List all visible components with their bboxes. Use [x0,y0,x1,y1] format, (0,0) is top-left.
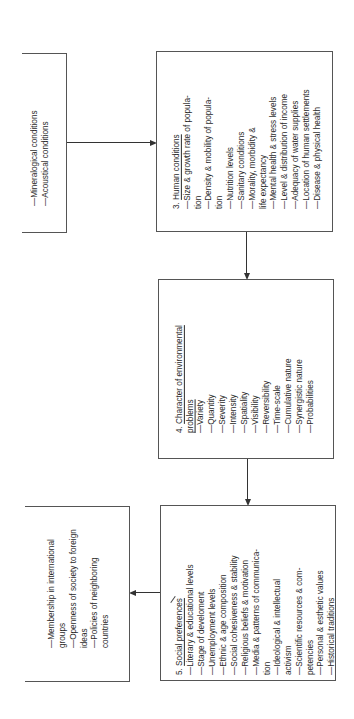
list-item: —Historical traditions [327,515,338,675]
list-item: —Morality, morbidity & [248,63,259,209]
list-item: —Reversibility [262,305,273,433]
list-item: —Literary & educational levels [186,515,197,675]
list-item: —Scientific resources & com- [295,515,306,675]
list-item: —Membership in international [47,530,58,648]
list-item: —Ideological & intellectual [273,515,284,675]
box-title: 5. Social preferences [175,515,186,675]
box-human-conditions-text: 3. Human conditions —Size & growth rate … [172,63,324,209]
list-item: —Mineralogical conditions [30,96,41,206]
list-item: —Disease & physical health [313,63,324,209]
list-item: —Variety [196,305,207,433]
list-item: —Unemployment levels [208,515,219,675]
list-item: —Spatiality [240,305,251,433]
list-item: —Sanitary conditions [237,63,248,209]
list-item-continuation: tion [215,63,226,209]
box-title-continuation: problems [186,305,197,433]
list-item: —Cumulative nature [284,305,295,433]
list-item-continuation: groups [58,530,69,648]
connector-line [67,142,151,143]
list-item: —Visibility [251,305,262,433]
box-environmental-problems-text: 4. Character of environmental problems —… [175,305,317,433]
list-item: —Policies of neighboring [90,530,101,648]
list-item-continuation: tion [263,515,274,675]
list-item: —Location of human settlements [302,63,313,209]
list-item: —Size & growth rate of popula- [183,63,194,209]
box-title: 3. Human conditions [172,63,183,209]
list-item: —Density & mobility of popula- [204,63,215,209]
list-item: —Severity [218,305,229,433]
list-item-continuation: activism [284,515,295,675]
box-title: 4. Character of environmental [175,305,186,433]
list-item: —Adequacy of water supplies [291,63,302,209]
list-item: —Time-scale [273,305,284,433]
list-item: —Religious beliefs & motivation [241,515,252,675]
list-item-continuation: tion [194,63,205,209]
connector-line [135,592,160,593]
arrow-left-icon [129,590,136,596]
list-item-continuation: life expectancy [259,63,270,209]
list-item: —Personal & esthetic values [316,515,327,675]
list-item: —Stage of develoment [197,515,208,675]
connector-line [247,459,248,500]
box-international-relations-text: —Membership in international groups —Ope… [47,530,112,648]
list-item: —Synergistic nature [295,305,306,433]
list-item: —Social cohesiveness & stability [230,515,241,675]
list-item: —Nutrition levels [226,63,237,209]
list-item-continuation: petencies [306,515,317,675]
list-item: —Ethnic & age composition [219,515,230,675]
list-item: —Level & distribution of income [280,63,291,209]
box-physical-conditions-text: —Mineralogical conditions —Acoustical co… [30,96,52,206]
box-social-preferences-text: 5. Social preferences —Literary & educat… [175,515,338,675]
list-item: —Acoustical conditions [41,96,52,206]
list-item: —Intensity [229,305,240,433]
list-item-continuation: countries [101,530,112,648]
list-item: —Openness of society to foreign [69,530,80,648]
list-item: —Media & patterns of communica- [252,515,263,675]
list-item: —Mental health & stress levels [269,63,280,209]
list-item: —Quantity [207,305,218,433]
list-item: —Probabilities [306,305,317,433]
list-item-continuation: ideas [80,530,91,648]
connector-line [246,232,247,274]
